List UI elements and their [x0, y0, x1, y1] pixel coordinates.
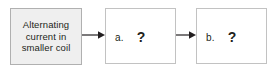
flow-node-b[interactable]: b. ? [196, 8, 267, 64]
flow-node-b-content: b. ? [197, 28, 266, 44]
flow-node-a[interactable]: a. ? [105, 8, 176, 64]
flow-node-a-placeholder: ? [137, 29, 146, 45]
source-text-line-1: Alternating [22, 19, 71, 31]
flow-node-b-label: b. [206, 32, 215, 43]
flow-node-b-placeholder: ? [228, 29, 237, 45]
flowchart-diagram: Alternating current in smaller coil a. ?… [0, 0, 277, 77]
flow-node-source-text: Alternating current in smaller coil [20, 19, 73, 54]
connector-arrow-source-to-a [82, 29, 106, 41]
flow-node-source: Alternating current in smaller coil [10, 8, 82, 65]
connector-arrow-a-to-b [176, 29, 197, 41]
flow-node-a-label: a. [115, 32, 124, 43]
source-text-line-2: current in [22, 31, 71, 43]
flow-node-a-content: a. ? [106, 28, 175, 44]
source-text-line-3: smaller coil [22, 42, 71, 54]
